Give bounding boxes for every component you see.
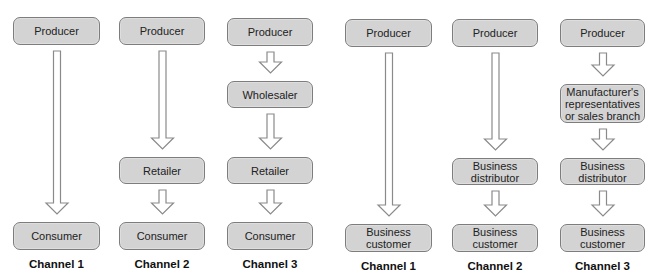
node-label: Producer [140, 25, 185, 37]
down-arrow-icon [592, 53, 614, 76]
node-label: Consumer [137, 230, 188, 242]
node-producer: Producer [560, 19, 645, 47]
node-label: Business customer [366, 226, 411, 250]
node-consumer: Consumer [13, 222, 100, 250]
node-business-customer: Business customer [345, 224, 432, 252]
node-consumer: Consumer [227, 222, 313, 250]
node-label: Producer [34, 25, 79, 37]
node-label: Retailer [251, 165, 289, 177]
node-label: Business distributor [578, 160, 626, 184]
down-arrow-icon [485, 191, 507, 216]
node-producer: Producer [345, 19, 432, 47]
down-arrow-icon [260, 114, 282, 149]
node-consumer: Consumer [119, 222, 205, 250]
node-label: Business customer [472, 226, 517, 250]
node-label: Business customer [580, 226, 625, 250]
down-arrow-icon [592, 129, 614, 150]
down-arrow-icon [260, 52, 282, 73]
channel-label: Channel 2 [119, 258, 205, 270]
node-producer: Producer [119, 17, 205, 45]
node-label: Consumer [31, 230, 82, 242]
node-business-customer: Business customer [560, 224, 645, 252]
node-label: Producer [580, 27, 625, 39]
node-business-distributor: Business distributor [560, 158, 645, 185]
down-arrow-icon [152, 51, 174, 149]
node-retailer: Retailer [119, 157, 205, 184]
node-producer: Producer [13, 17, 100, 45]
node-business-customer: Business customer [452, 224, 538, 252]
down-arrow-icon [152, 190, 174, 214]
down-arrow-icon [485, 53, 507, 150]
node-label: Manufacturer's representatives or sales … [565, 86, 640, 122]
node-label: Business distributor [471, 160, 519, 184]
node-business-distributor: Business distributor [452, 158, 538, 185]
node-producer: Producer [227, 18, 313, 46]
down-arrow-icon [260, 190, 282, 214]
node-retailer: Retailer [227, 157, 313, 184]
node-wholesaler: Wholesaler [227, 81, 313, 108]
channel-label: Channel 1 [13, 258, 100, 270]
channel-label: Channel 1 [345, 260, 432, 272]
node-producer: Producer [452, 19, 538, 47]
down-arrow-icon [46, 51, 68, 214]
channel-label: Channel 2 [452, 260, 538, 272]
node-label: Producer [366, 27, 411, 39]
node-label: Producer [248, 26, 293, 38]
down-arrow-icon [378, 53, 400, 216]
node-manufacturer-s-representatives-or-sales-branch: Manufacturer's representatives or sales … [560, 84, 645, 123]
channel-label: Channel 3 [560, 260, 645, 272]
node-label: Consumer [245, 230, 296, 242]
node-label: Producer [473, 27, 518, 39]
down-arrow-icon [592, 191, 614, 216]
node-label: Wholesaler [242, 89, 297, 101]
node-label: Retailer [143, 165, 181, 177]
channel-label: Channel 3 [227, 258, 313, 270]
distribution-channels-diagram: ProducerConsumerChannel 1ProducerRetaile… [0, 0, 660, 278]
